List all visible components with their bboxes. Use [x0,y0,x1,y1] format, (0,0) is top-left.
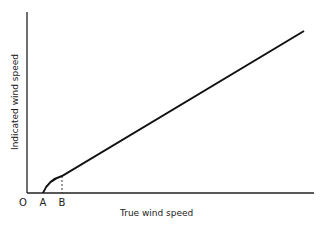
b-label: B [59,197,66,208]
y-axis-label: Indicated wind speed [10,54,20,150]
a-label: A [40,197,47,208]
diagram: O A B True wind speed Indicated wind spe… [0,0,322,228]
origin-label: O [19,197,27,208]
x-axis-label: True wind speed [119,208,193,218]
response-curve [43,31,304,193]
